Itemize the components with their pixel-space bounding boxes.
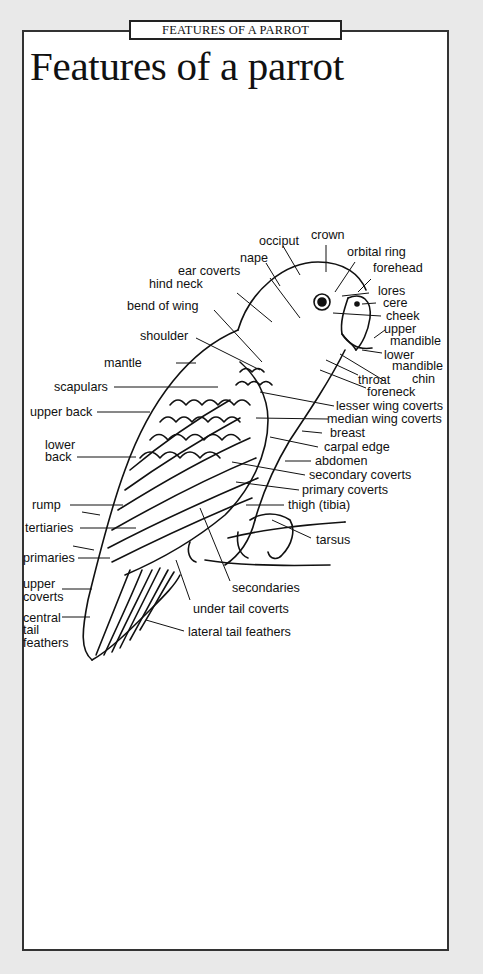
label-mantle: mantle bbox=[104, 357, 142, 370]
label-forehead: forehead bbox=[373, 262, 423, 275]
label-primary-coverts: primary coverts bbox=[302, 484, 388, 497]
label-bend-of-wing: bend of wing bbox=[127, 300, 198, 313]
label-lower-back-2: back bbox=[45, 451, 72, 464]
label-under-tail-coverts: under tail coverts bbox=[193, 603, 289, 616]
label-orbital-ring: orbital ring bbox=[347, 246, 406, 259]
label-shoulder: shoulder bbox=[140, 330, 188, 343]
label-central-tail-3: feathers bbox=[23, 637, 69, 650]
label-abdomen: abdomen bbox=[315, 455, 368, 468]
label-lateral-tail-feathers: lateral tail feathers bbox=[188, 626, 291, 639]
label-breast: breast bbox=[330, 427, 365, 440]
label-occiput: occiput bbox=[259, 235, 299, 248]
label-rump: rump bbox=[32, 499, 61, 512]
label-scapulars: scapulars bbox=[54, 381, 108, 394]
label-secondaries: secondaries bbox=[232, 582, 300, 595]
label-upper-back: upper back bbox=[30, 406, 92, 419]
label-tarsus: tarsus bbox=[316, 534, 350, 547]
label-upper-coverts-2: coverts bbox=[23, 591, 64, 604]
label-crown: crown bbox=[311, 229, 345, 242]
label-hind-neck: hind neck bbox=[149, 278, 203, 291]
label-foreneck: foreneck bbox=[367, 386, 415, 399]
parrot-illustration bbox=[0, 0, 483, 974]
label-secondary-coverts: secondary coverts bbox=[309, 469, 411, 482]
label-upper-mandible-2: mandible bbox=[390, 335, 441, 348]
label-chin: chin bbox=[412, 373, 435, 386]
label-nape: nape bbox=[240, 252, 268, 265]
label-median-wing-coverts: median wing coverts bbox=[327, 413, 442, 426]
label-carpal-edge: carpal edge bbox=[324, 441, 390, 454]
label-thigh: thigh (tibia) bbox=[288, 499, 350, 512]
label-primaries: primaries bbox=[23, 552, 75, 565]
label-tertiaries: tertiaries bbox=[25, 522, 73, 535]
